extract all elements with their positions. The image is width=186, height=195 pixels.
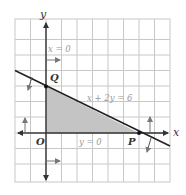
point-q <box>44 85 48 89</box>
constraint-label-x-eq-0: x = 0 <box>48 44 71 54</box>
y-axis-label: y <box>39 8 47 21</box>
x-axis-label: x <box>173 126 180 139</box>
constraint-label-y-eq-0: y = 0 <box>78 137 102 147</box>
point-p-label: P <box>127 136 136 147</box>
point-q-label: Q <box>50 72 59 83</box>
point-p <box>137 131 141 135</box>
constraint-label-x-plus-2y-eq-6: x + 2y = 6 <box>87 93 133 103</box>
origin-label: O <box>36 136 45 147</box>
direction-arrow-line-right <box>147 138 151 152</box>
diagram-figure: y x O Q P x = 0 y = 0 x + 2y = 6 <box>0 0 186 195</box>
